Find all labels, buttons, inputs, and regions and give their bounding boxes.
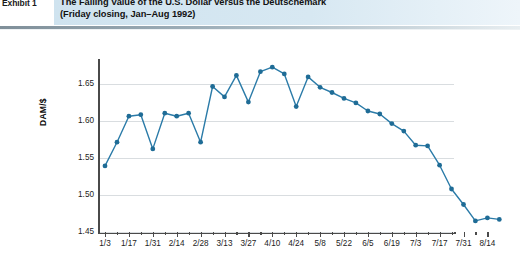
data-point (258, 69, 263, 74)
data-point (103, 164, 108, 169)
data-point (150, 147, 155, 152)
data-point (222, 95, 227, 100)
data-point (354, 101, 359, 106)
data-point (401, 129, 406, 134)
data-point (138, 112, 143, 117)
data-point (377, 112, 382, 117)
data-point (115, 140, 120, 145)
figure-header: Exhibit 1 The Falling Value of the U.S. … (0, 0, 520, 30)
data-point (366, 109, 371, 114)
data-point (485, 216, 490, 221)
data-point (234, 73, 239, 78)
data-point (437, 163, 442, 168)
exhibit-figure: Exhibit 1 The Falling Value of the U.S. … (0, 0, 520, 261)
chart-area: DAM/$ 1.451.501.551.601.65 1/31/171/312/… (0, 30, 520, 261)
data-point (186, 111, 191, 116)
figure-title: The Falling Value of the U.S. Dollar ver… (60, 0, 326, 7)
series-line-dollar-dm (0, 30, 520, 261)
data-point (246, 100, 251, 105)
data-point (473, 219, 478, 224)
data-point (413, 143, 418, 148)
data-point (342, 96, 347, 101)
data-point (318, 85, 323, 90)
data-point (461, 202, 466, 207)
chart-plot: DAM/$ 1.451.501.551.601.65 1/31/171/312/… (0, 30, 520, 261)
series-line (105, 67, 499, 221)
data-point (389, 121, 394, 126)
data-point (270, 65, 275, 70)
data-point (497, 217, 502, 222)
data-point (174, 114, 179, 119)
data-point (210, 84, 215, 89)
data-point (198, 140, 203, 145)
data-point (330, 90, 335, 95)
figure-subtitle: (Friday closing, Jan–Aug 1992) (60, 9, 195, 19)
data-point (425, 144, 430, 149)
data-point (282, 72, 287, 77)
data-point (294, 104, 299, 109)
data-point (449, 187, 454, 192)
data-point (162, 111, 167, 116)
exhibit-number: Exhibit 1 (2, 0, 37, 8)
data-point (306, 75, 311, 80)
data-point (126, 114, 131, 119)
